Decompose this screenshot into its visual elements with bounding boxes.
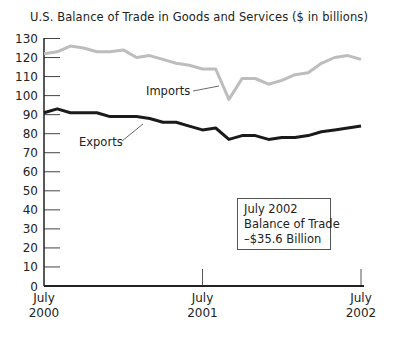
y-tick-label: 100: [15, 89, 38, 103]
y-tick-label: 40: [23, 203, 38, 217]
y-tick-label: 70: [23, 146, 38, 160]
x-tick-label-month: July: [191, 291, 214, 305]
y-tick-label: 50: [23, 184, 38, 198]
y-tick-label: 30: [23, 222, 38, 236]
y-tick-label: 80: [23, 127, 38, 141]
x-tick-label-year: 2000: [29, 306, 60, 320]
annotation-line-3: –$35.6 Billion: [244, 232, 324, 247]
y-tick-label: 110: [15, 70, 38, 84]
annotation-box: July 2002 Balance of Trade –$35.6 Billio…: [237, 198, 331, 250]
x-tick-label-month: July: [32, 291, 55, 305]
x-tick-label-year: 2002: [346, 306, 377, 320]
imports-line: [44, 46, 361, 99]
y-tick-label: 90: [23, 108, 38, 122]
exports-label: Exports: [79, 135, 123, 149]
x-axis-ticks: July2000July2001July2002: [29, 269, 377, 320]
imports-leader-line: [193, 86, 219, 91]
x-tick-label-month: July: [349, 291, 372, 305]
y-tick-label: 60: [23, 165, 38, 179]
y-axis-ticks: 0102030405060708090100110120130: [15, 32, 60, 294]
y-tick-label: 120: [15, 51, 38, 65]
y-tick-label: 10: [23, 260, 38, 274]
imports-label: Imports: [146, 84, 190, 98]
x-tick-label-year: 2001: [187, 306, 218, 320]
line-chart: 0102030405060708090100110120130 July2000…: [0, 0, 398, 337]
annotation-line-2: Balance of Trade: [244, 217, 324, 232]
y-tick-label: 130: [15, 32, 38, 46]
annotation-line-1: July 2002: [244, 202, 324, 217]
y-tick-label: 20: [23, 241, 38, 255]
exports-leader-line: [122, 124, 143, 141]
